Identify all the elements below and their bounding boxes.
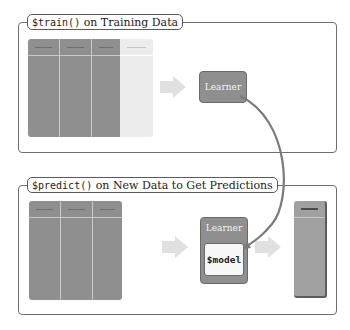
model-transfer-curve xyxy=(0,0,350,330)
